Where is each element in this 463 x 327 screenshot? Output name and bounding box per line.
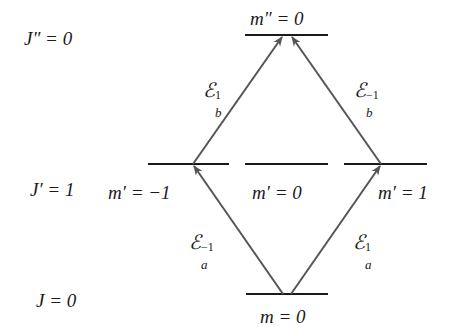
label-Ea-minus1: ℰ−1a: [189, 232, 201, 252]
label-J: J = 0: [36, 291, 76, 310]
label-Eb-1: ℰ1b: [203, 80, 215, 100]
label-Eb-minus1: ℰ−1b: [354, 80, 366, 100]
arrow-Ea-1: [291, 166, 380, 294]
label-m-prime-minus1: m′ = −1: [108, 183, 171, 202]
label-m-0: m = 0: [260, 307, 306, 326]
label-m-double-prime-0: m″ = 0: [250, 9, 303, 28]
label-J-double-prime: J″ = 0: [24, 29, 72, 48]
label-m-prime-1: m′ = 1: [378, 183, 428, 202]
label-J-prime: J′ = 1: [30, 180, 74, 199]
label-Ea-1: ℰ1a: [353, 232, 365, 252]
label-m-prime-0: m′ = 0: [252, 183, 302, 202]
